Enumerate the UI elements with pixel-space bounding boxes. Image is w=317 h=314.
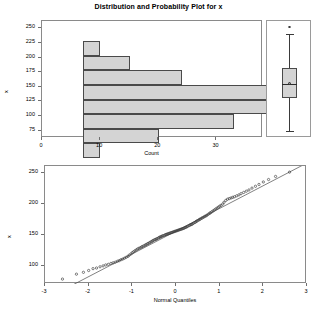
qqplot-point (248, 189, 250, 191)
qqplot-point (102, 265, 104, 267)
qqplot-x-tick-label: -3 (32, 288, 56, 294)
qqplot-x-tick-label: 2 (250, 288, 274, 294)
qqplot-x-tick (262, 283, 263, 286)
qqplot-y-tick (41, 234, 44, 235)
qqplot-y-tick-label: 200 (8, 199, 38, 205)
qqplot-y-tick (41, 265, 44, 266)
boxplot-whisker-cap-lower (286, 131, 294, 132)
qqplot-point (243, 191, 245, 193)
qqplot-point (75, 273, 77, 275)
qqplot-x-tick-label: -1 (119, 288, 143, 294)
qqplot-x-tick-label: 0 (163, 288, 187, 294)
qqplot-x-tick (175, 283, 176, 286)
qqplot-point (258, 183, 260, 185)
qqplot-point (267, 178, 269, 180)
qqplot-panel: -3-2-10123100150200250Normal Quantilesx (0, 155, 317, 314)
qqplot-x-tick (131, 283, 132, 286)
qqplot-data-layer (45, 166, 307, 284)
qqplot-point (105, 264, 107, 266)
qqplot-point (254, 185, 256, 187)
qqplot-x-axis-label: Normal Quantiles (44, 297, 306, 303)
qqplot-point (274, 175, 276, 177)
qqplot-x-tick-label: -2 (76, 288, 100, 294)
qqplot-y-tick (41, 203, 44, 204)
qqplot-x-tick (88, 283, 89, 286)
qqplot-point (107, 263, 109, 265)
qqplot-y-tick (41, 172, 44, 173)
plot-canvas: Distribution and Probability Plot for x … (0, 0, 317, 314)
qqplot-point (99, 266, 101, 268)
qqplot-point (240, 193, 242, 195)
qqplot-point (95, 267, 97, 269)
qqplot-y-tick-label: 100 (8, 261, 38, 267)
qqplot-points (61, 171, 290, 280)
boxplot-whisker-cap-upper (286, 34, 294, 35)
qqplot-x-tick (219, 283, 220, 286)
qqplot-point (262, 181, 264, 183)
qqplot-x-tick-label: 1 (207, 288, 231, 294)
qqplot-x-tick (306, 283, 307, 286)
qqplot-point (88, 269, 90, 271)
qqplot-x-tick (44, 283, 45, 286)
qqplot-point (61, 278, 63, 280)
boxplot-outlier-point (288, 26, 290, 28)
qqplot-point (92, 267, 94, 269)
qqplot-point (245, 190, 247, 192)
qqplot-y-tick-label: 150 (8, 230, 38, 236)
qqplot-point (82, 271, 84, 273)
qqplot-y-axis-label: x (6, 208, 12, 238)
boxplot-plot-area (266, 20, 311, 137)
boxplot-panel (0, 0, 317, 160)
qqplot-point (251, 187, 253, 189)
qqplot-x-tick-label: 3 (294, 288, 317, 294)
qqplot-plot-area (44, 165, 306, 283)
qqplot-y-tick-label: 250 (8, 168, 38, 174)
